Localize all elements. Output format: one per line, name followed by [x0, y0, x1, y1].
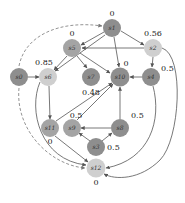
node-s5: s5 0 [63, 29, 81, 57]
edge-s11-s12 [55, 136, 88, 162]
svg-text:s10: s10 [115, 73, 126, 80]
svg-text:s1: s1 [109, 24, 116, 31]
svg-text:s7: s7 [88, 73, 95, 80]
svg-text:s6: s6 [45, 73, 52, 80]
node-s1: s1 0 [103, 9, 121, 37]
svg-text:s5: s5 [69, 44, 76, 51]
svg-text:s12: s12 [91, 164, 102, 171]
node-s10: s10 0 [111, 59, 130, 87]
edge-s5-s7 [77, 56, 87, 68]
value-s4: 0.5 [161, 64, 174, 73]
svg-text:s2: s2 [150, 44, 157, 51]
svg-text:s3: s3 [93, 143, 100, 150]
edge-s2-s4 [152, 57, 153, 67]
value-s8: 0.5 [131, 111, 144, 120]
value-s9: 0.5 [70, 111, 83, 120]
value-s1: 0 [109, 9, 114, 18]
value-s12: 0 [93, 178, 98, 187]
value-s6: 0.85 [35, 58, 53, 67]
node-s8: s8 0.5 [111, 111, 144, 137]
node-s6: s6 0.85 [35, 58, 57, 86]
edge-s3-s9 [79, 133, 90, 141]
svg-text:s0: s0 [16, 73, 23, 80]
node-s0: s0 [10, 68, 28, 86]
node-s2: s2 0.56 [144, 29, 162, 57]
svg-text:s4: s4 [148, 73, 155, 80]
node-s3: s3 0.5 [87, 138, 120, 156]
state-graph: s0 s1 0 s2 0.56 s3 0.5 s4 0.5 s5 [0, 0, 185, 203]
edge-s1-s2 [121, 31, 144, 45]
value-s11: 0 [47, 137, 52, 146]
svg-text:s8: s8 [117, 124, 124, 131]
node-s11: s11 0 [41, 119, 59, 146]
nodes-layer: s0 s1 0 s2 0.56 s3 0.5 s4 0.5 s5 [10, 9, 174, 187]
value-s3: 0.5 [107, 143, 120, 152]
node-s4: s4 0.5 [142, 64, 174, 86]
edge-s5-s6 [54, 56, 67, 70]
svg-text:s11: s11 [45, 124, 56, 131]
edge-s3-s8 [102, 133, 112, 141]
edge-s6-s11 [49, 86, 50, 119]
value-s10: 0 [123, 59, 128, 68]
node-s7: s7 0.48 [82, 68, 100, 97]
edge-s1-s10 [114, 37, 119, 67]
value-s5: 0 [69, 29, 74, 38]
svg-text:s9: s9 [69, 124, 76, 131]
value-s2: 0.56 [144, 29, 162, 38]
node-s12: s12 0 [87, 159, 106, 188]
value-s7: 0.48 [82, 88, 100, 97]
